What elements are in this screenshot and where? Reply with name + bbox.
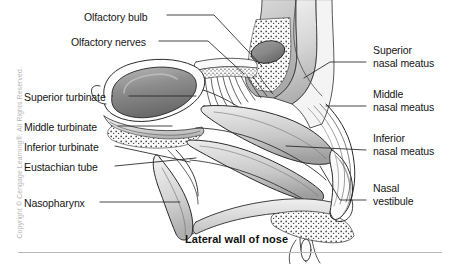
label-nasopharynx: Nasopharynx <box>24 197 85 210</box>
caption-rule <box>18 252 442 253</box>
label-olfactory-nerves: Olfactory nerves <box>71 36 146 49</box>
label-middle-nasal-meatus: Middle nasal meatus <box>373 88 434 113</box>
label-nasal-vestibule: Nasal vestibule <box>373 182 414 207</box>
leader-inferior-nasal-meatus <box>286 146 366 150</box>
label-olfactory-bulb: Olfactory bulb <box>84 11 147 24</box>
label-inferior-turbinate: Inferior turbinate <box>24 141 99 154</box>
leader-olfactory-bulb <box>167 15 262 66</box>
leader-olfactory-nerves <box>159 41 244 74</box>
label-inferior-nasal-meatus: Inferior nasal meatus <box>373 132 434 157</box>
leader-superior-nasal-meatus <box>304 62 366 78</box>
label-middle-turbinate: Middle turbinate <box>24 121 97 134</box>
label-eustachian-tube: Eustachian tube <box>24 161 98 174</box>
label-superior-turbinate: Superior turbinate <box>24 91 106 104</box>
leader-eustachian-tube <box>115 158 196 166</box>
lateral-wall-of-nose-figure: Olfactory bulb Olfactory nerves Superior… <box>0 0 452 264</box>
label-superior-nasal-meatus: Superior nasal meatus <box>373 44 434 69</box>
leader-nasal-vestibule <box>320 166 366 200</box>
figure-caption: Lateral wall of nose <box>185 233 288 245</box>
copyright-notice: Copyright © Cengage Learning®. All Right… <box>16 89 23 239</box>
